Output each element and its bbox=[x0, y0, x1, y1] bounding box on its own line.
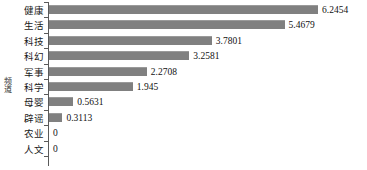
bar-chart: 频道 健康6.2454生活5.4679科技3.7801科幻3.2581军事2.2… bbox=[0, 0, 367, 170]
category-label: 农业 bbox=[0, 125, 44, 141]
bar bbox=[49, 51, 189, 60]
bar-row: 农业0 bbox=[0, 125, 367, 141]
category-label: 科技 bbox=[0, 33, 44, 49]
bar-row: 科幻3.2581 bbox=[0, 48, 367, 64]
bar-row: 科技3.7801 bbox=[0, 33, 367, 49]
axis-tick-end bbox=[44, 156, 48, 157]
bar bbox=[49, 20, 285, 29]
value-label: 5.4679 bbox=[289, 17, 315, 33]
bar bbox=[49, 36, 212, 45]
bar-row: 军事2.2708 bbox=[0, 64, 367, 80]
bar bbox=[49, 113, 62, 122]
axis-tick bbox=[44, 94, 48, 95]
category-label: 科幻 bbox=[0, 48, 44, 64]
value-label: 0 bbox=[53, 141, 58, 157]
category-label: 人文 bbox=[0, 141, 44, 157]
category-label: 辟谣 bbox=[0, 110, 44, 126]
axis-tick bbox=[44, 125, 48, 126]
axis-tick bbox=[44, 79, 48, 80]
axis-tick bbox=[44, 64, 48, 65]
bar-row: 科学1.945 bbox=[0, 79, 367, 95]
value-label: 3.7801 bbox=[216, 33, 242, 49]
bar-row: 辟谣0.3113 bbox=[0, 110, 367, 126]
value-label: 0.3113 bbox=[66, 110, 92, 126]
category-label: 母婴 bbox=[0, 94, 44, 110]
axis-tick bbox=[44, 48, 48, 49]
value-label: 3.2581 bbox=[193, 48, 219, 64]
category-label: 科学 bbox=[0, 79, 44, 95]
bar bbox=[49, 5, 318, 14]
value-label: 0.5631 bbox=[77, 94, 103, 110]
value-label: 0 bbox=[53, 125, 58, 141]
bar bbox=[49, 82, 133, 91]
value-label: 1.945 bbox=[137, 79, 158, 95]
category-label: 健康 bbox=[0, 2, 44, 18]
bar bbox=[49, 67, 147, 76]
axis-tick bbox=[44, 2, 48, 3]
axis-tick bbox=[44, 141, 48, 142]
bar bbox=[49, 97, 73, 106]
bar-row: 健康6.2454 bbox=[0, 2, 367, 18]
bar-row: 人文0 bbox=[0, 141, 367, 157]
bar-row: 母婴0.5631 bbox=[0, 94, 367, 110]
value-label: 2.2708 bbox=[151, 64, 177, 80]
category-label: 生活 bbox=[0, 17, 44, 33]
plot-area: 健康6.2454生活5.4679科技3.7801科幻3.2581军事2.2708… bbox=[0, 0, 367, 170]
axis-tick bbox=[44, 110, 48, 111]
axis-tick bbox=[44, 33, 48, 34]
value-label: 6.2454 bbox=[322, 2, 348, 18]
axis-tick bbox=[44, 17, 48, 18]
bar-row: 生活5.4679 bbox=[0, 17, 367, 33]
category-label: 军事 bbox=[0, 64, 44, 80]
